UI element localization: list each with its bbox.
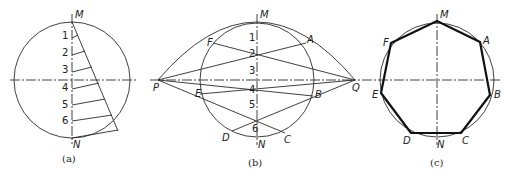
label-C-b: C <box>284 134 291 145</box>
num-1-a: 1 <box>62 30 68 41</box>
caption-a: (a) <box>62 153 76 164</box>
label-N-c: N <box>437 139 445 150</box>
caption-b: (b) <box>248 157 262 168</box>
line-P-4-B <box>158 80 313 96</box>
division-line-3 <box>72 67 92 72</box>
label-P: P <box>153 82 160 93</box>
label-M-c: M <box>440 9 449 20</box>
num-6-a: 6 <box>62 115 68 126</box>
num-2-a: 2 <box>62 47 68 58</box>
label-M-b: M <box>260 9 269 20</box>
label-D-b: D <box>222 132 230 143</box>
large-arc-b <box>158 22 355 80</box>
label-B-b: B <box>315 89 322 100</box>
label-E-c: E <box>372 89 379 100</box>
division-line-4 <box>72 83 99 89</box>
heptagon <box>381 21 490 133</box>
label-Q: Q <box>352 82 360 93</box>
num-5-b: 5 <box>249 99 255 110</box>
label-C-c: C <box>462 135 469 146</box>
num-3-a: 3 <box>62 64 68 75</box>
panel-c: M N A B C D E F (c) <box>362 9 501 168</box>
label-N-b: N <box>258 139 266 150</box>
label-E-b: E <box>195 88 202 99</box>
num-4-b: 4 <box>249 84 255 95</box>
division-line-2 <box>72 51 85 55</box>
label-N-a: N <box>73 139 81 150</box>
division-line-5 <box>72 99 105 105</box>
panel-a: M N 1 2 3 4 5 6 (a) <box>10 9 136 164</box>
division-line-1 <box>72 35 78 38</box>
num-5-a: 5 <box>62 99 68 110</box>
auxiliary-line-a <box>72 22 118 131</box>
heptagon-construction-diagram: M N 1 2 3 4 5 6 (a) M N P Q A B C D E F … <box>0 0 508 178</box>
label-F-b: F <box>207 37 213 48</box>
label-A-b: A <box>306 34 314 45</box>
division-line-6 <box>72 115 112 121</box>
label-D-c: D <box>403 135 411 146</box>
label-F-c: F <box>383 37 389 48</box>
num-3-b: 3 <box>249 65 255 76</box>
label-B-c: B <box>494 89 501 100</box>
num-6-b: 6 <box>252 123 258 134</box>
num-2-b: 2 <box>249 48 255 59</box>
caption-c: (c) <box>430 157 444 168</box>
num-4-a: 4 <box>62 82 68 93</box>
label-A-c: A <box>482 35 490 46</box>
label-M-a: M <box>75 9 84 20</box>
panel-b: M N P Q A B C D E F 1 2 3 4 5 6 (b) <box>150 9 360 168</box>
division-line-7 <box>72 130 118 138</box>
num-1-b: 1 <box>249 32 255 43</box>
